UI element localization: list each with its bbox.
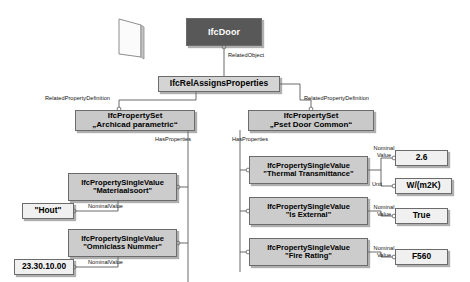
node-ifcdoor[interactable]: IfcDoor [186, 18, 262, 46]
node-value-is-external[interactable]: True [395, 208, 448, 224]
edge-label-nominal-value-fire-line2: Value [377, 252, 391, 258]
node-ifcdoor-label: IfcDoor [208, 27, 240, 37]
node-property-omniclass-line2: "Omniclass Nummer" [83, 243, 162, 252]
edge-label-nominal-value-hout: NominalValue [88, 203, 123, 210]
node-ifcrelassignsproperties-label: IfcRelAssignsProperties [170, 79, 268, 89]
node-property-fire-rating-line2: "Fire Rating" [285, 252, 332, 261]
node-value-hout-label: "Hout" [34, 206, 61, 215]
node-value-is-external-label: True [413, 211, 431, 220]
node-propertyset-door-common[interactable]: IfcPropertySet „Pset Door Common“ [248, 110, 374, 131]
edge-label-nominal-value-omniclass: NominalValue [88, 259, 123, 266]
node-value-thermal-unit-label: W/(m2K) [407, 181, 441, 190]
edge-label-nominal-value-thermal-line2: Value [377, 152, 391, 158]
edge-label-related-property-definition-right: RelatedPropertyDefinition [304, 95, 369, 102]
edge-label-nominal-value-thermal-line1: Nominal [374, 145, 395, 151]
node-property-fire-rating[interactable]: IfcPropertySingleValue "Fire Rating" [249, 238, 368, 266]
ifc-relationship-diagram: IfcDoor RelatedObject IfcRelAssignsPrope… [0, 0, 470, 282]
edge-label-nominal-value-external-line1: Nominal [374, 204, 395, 210]
node-propertyset-door-common-line2: „Pset Door Common“ [270, 121, 353, 130]
edge-label-related-property-definition-left: RelatedPropertyDefinition [45, 95, 110, 102]
node-value-omniclass[interactable]: 23.30.10.00 [14, 259, 74, 275]
node-property-is-external-line2: "Is External" [286, 211, 332, 220]
node-value-fire-rating-label: F560 [412, 252, 431, 261]
node-property-thermal-transmittance[interactable]: IfcPropertySingleValue "Thermal Transmit… [249, 156, 368, 184]
node-property-materiaalsoort-line2: "Materiaalsoort" [93, 187, 152, 196]
door-parallelogram-icon [108, 10, 156, 62]
node-value-thermal-label: 2.6 [416, 153, 428, 162]
edge-label-related-object: RelatedObject [228, 52, 264, 59]
edge-label-has-properties-right: HasProperties [232, 136, 268, 143]
node-property-is-external[interactable]: IfcPropertySingleValue "Is External" [249, 197, 368, 225]
node-property-omniclass[interactable]: IfcPropertySingleValue "Omniclass Nummer… [68, 229, 177, 257]
node-ifcrelassignsproperties[interactable]: IfcRelAssignsProperties [158, 76, 280, 92]
node-value-omniclass-label: 23.30.10.00 [22, 262, 66, 271]
node-propertyset-archicad[interactable]: IfcPropertySet „Archicad parametric“ [75, 110, 195, 131]
node-property-materiaalsoort[interactable]: IfcPropertySingleValue "Materiaalsoort" [68, 173, 177, 201]
node-property-thermal-transmittance-line2: "Thermal Transmittance" [263, 170, 353, 179]
node-value-hout[interactable]: "Hout" [22, 203, 74, 219]
edge-label-nominal-value-external-line2: Value [377, 211, 391, 217]
node-value-thermal-unit[interactable]: W/(m2K) [395, 178, 452, 194]
edge-label-unit-thermal: Unit [372, 181, 382, 188]
node-value-fire-rating[interactable]: F560 [395, 249, 448, 265]
edge-label-has-properties-left: HasProperties [155, 136, 191, 143]
edge-label-nominal-value-fire-line1: Nominal [374, 245, 395, 251]
node-propertyset-archicad-line2: „Archicad parametric“ [92, 121, 177, 130]
node-value-thermal[interactable]: 2.6 [395, 150, 448, 166]
